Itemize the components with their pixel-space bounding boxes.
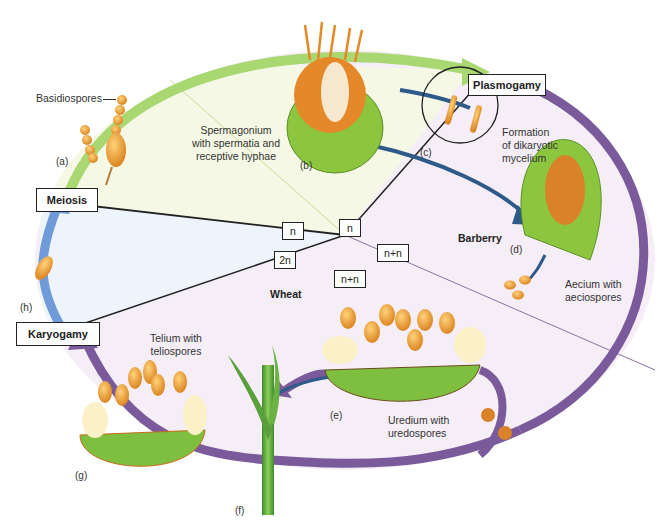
stage-c-label: (c) [420, 147, 432, 158]
telium-label-line1: Telium with [140, 332, 212, 345]
stage-b-label: (b) [300, 160, 312, 171]
ploidy-2n: 2n [274, 251, 296, 269]
uredium-label-line2: uredospores [388, 427, 449, 440]
ploidy-n-left: n [282, 222, 304, 240]
meiosis-label-box: Meiosis [36, 188, 98, 212]
rust-fungus-life-cycle-diagram: Plasmogamy Meiosis Karyogamy n n 2n n+n … [0, 0, 670, 528]
ploidy-n-top: n [339, 219, 361, 237]
stage-f-label: (f) [235, 505, 244, 516]
dikaryotic-label-line1: Formation [502, 126, 558, 139]
uredium-label: Uredium with uredospores [388, 414, 449, 440]
stage-g-label: (g) [75, 470, 87, 481]
diagram-artwork [0, 0, 670, 528]
aecium-label-line1: Aecium with [565, 278, 622, 291]
uredium-label-line1: Uredium with [388, 414, 449, 427]
karyogamy-label-box: Karyogamy [16, 322, 100, 346]
stage-d-label: (d) [510, 244, 522, 255]
spermagonium-label: Spermagonium with spermatia and receptiv… [188, 124, 284, 163]
dikaryotic-mycelium-label: Formation of dikaryotic mycelium [502, 126, 558, 165]
telium-label: Telium with teliospores [140, 332, 212, 358]
spermagonium-label-line3: receptive hyphae [188, 150, 284, 163]
stage-h-label: (h) [20, 302, 32, 313]
host-wheat-label: Wheat [270, 288, 302, 301]
dikaryotic-label-line2: of dikaryotic [502, 139, 558, 152]
spermagonium-illustration [287, 22, 383, 173]
stage-e-label: (e) [330, 410, 342, 421]
basidiospores-leader-line [103, 99, 116, 100]
telium-label-line2: teliospores [140, 345, 212, 358]
aecium-label-line2: aeciospores [565, 291, 622, 304]
host-barberry-label: Barberry [458, 232, 502, 245]
plasmogamy-label-box: Plasmogamy [468, 74, 546, 96]
basidiospores-label: Basidiospores [36, 92, 102, 105]
ploidy-n-plus-n-bottom: n+n [334, 270, 366, 288]
spermagonium-label-line2: with spermatia and [188, 137, 284, 150]
ploidy-n-plus-n-right: n+n [377, 244, 409, 262]
spermagonium-label-line1: Spermagonium [188, 124, 284, 137]
aecium-label: Aecium with aeciospores [565, 278, 622, 304]
stage-a-label: (a) [56, 156, 68, 167]
dikaryotic-label-line3: mycelium [502, 152, 558, 165]
